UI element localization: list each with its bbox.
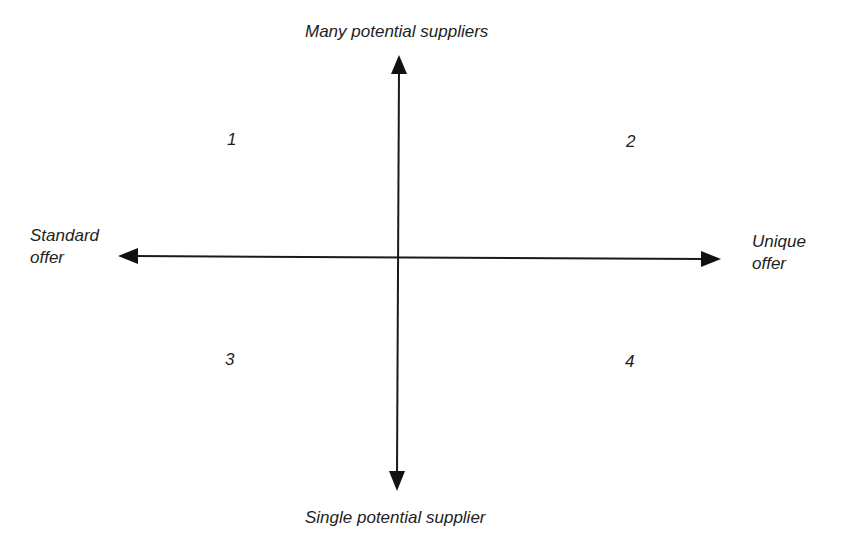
axis-label-left-line2: offer bbox=[30, 247, 99, 269]
quadrant-label-3: 3 bbox=[225, 350, 234, 370]
quadrant-diagram bbox=[0, 0, 843, 557]
arrow-up-icon bbox=[391, 55, 407, 74]
arrow-down-icon bbox=[389, 471, 405, 491]
quadrant-label-2: 2 bbox=[626, 132, 635, 152]
vertical-axis-line bbox=[397, 70, 399, 475]
axis-label-right-line2: offer bbox=[752, 253, 806, 275]
axis-label-right: Unique offer bbox=[752, 231, 806, 275]
axis-label-left: Standard offer bbox=[30, 225, 99, 269]
axis-label-left-line1: Standard bbox=[30, 225, 99, 247]
axis-label-bottom: Single potential supplier bbox=[305, 507, 486, 529]
horizontal-axis-line bbox=[134, 256, 704, 259]
arrow-right-icon bbox=[701, 251, 721, 267]
quadrant-label-4: 4 bbox=[625, 352, 634, 372]
quadrant-label-1: 1 bbox=[227, 130, 236, 150]
axis-label-top: Many potential suppliers bbox=[305, 21, 488, 43]
arrow-left-icon bbox=[118, 248, 138, 264]
axis-label-right-line1: Unique bbox=[752, 231, 806, 253]
